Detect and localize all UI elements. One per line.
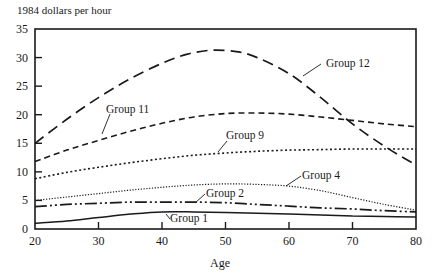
- leader-line-group-11: [102, 114, 110, 134]
- x-tick-label: 30: [93, 234, 105, 248]
- series-label-group-9: Group 9: [226, 129, 264, 142]
- series-labels: Group 12Group 11Group 9Group 4Group 2Gro…: [102, 57, 370, 225]
- y-tick-label: 20: [16, 108, 28, 122]
- x-tick-label: 20: [29, 234, 41, 248]
- series-line-group-2: [35, 202, 416, 212]
- x-tick-label: 70: [347, 234, 359, 248]
- y-tick-label: 10: [16, 165, 28, 179]
- axis-ticks: 2030405060708005101520253035: [16, 22, 422, 248]
- line-chart: 2030405060708005101520253035 Group 12Gro…: [0, 0, 440, 277]
- series-label-group-11: Group 11: [106, 103, 150, 116]
- y-tick-label: 0: [22, 222, 28, 236]
- y-tick-label: 30: [16, 51, 28, 65]
- series-label-group-2: Group 2: [206, 187, 244, 200]
- x-tick-label: 50: [220, 234, 232, 248]
- x-tick-label: 40: [156, 234, 168, 248]
- leader-line-group-9: [218, 141, 227, 152]
- series-line-group-1: [35, 212, 416, 224]
- x-tick-label: 60: [283, 234, 295, 248]
- x-axis-title: Age: [210, 256, 230, 270]
- x-tick-label: 80: [410, 234, 422, 248]
- leader-line-group-12: [303, 64, 321, 76]
- series-label-group-1: Group 1: [170, 212, 208, 225]
- leader-line-group-4: [286, 176, 301, 186]
- y-tick-label: 5: [22, 193, 28, 207]
- series-label-group-12: Group 12: [326, 57, 370, 70]
- series-line-group-9: [35, 149, 416, 179]
- y-tick-label: 35: [16, 22, 28, 36]
- y-tick-label: 25: [16, 79, 28, 93]
- y-tick-label: 15: [16, 136, 28, 150]
- series-label-group-4: Group 4: [302, 169, 340, 182]
